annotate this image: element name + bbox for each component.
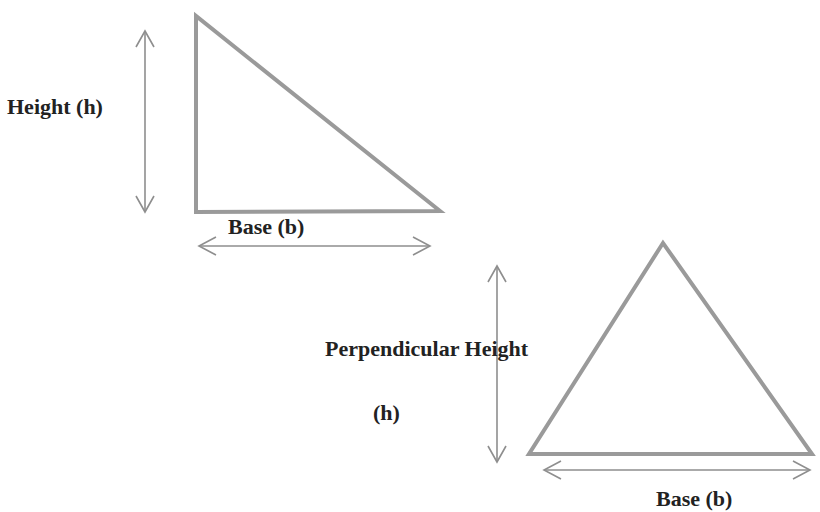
isosceles-triangle [529,243,812,454]
right-triangle [196,16,440,212]
perpendicular-height-label-h: (h) [373,402,400,424]
height-label: Height (h) [7,96,103,118]
base-label-2: Base (b) [656,488,732,510]
base-label: Base (b) [228,216,304,238]
perpendicular-height-arrow-icon [488,266,506,462]
perpendicular-height-label: Perpendicular Height [325,338,528,360]
base-arrow-icon [199,237,430,255]
diagram-canvas [0,0,820,512]
base-arrow-2-icon [544,461,810,479]
height-arrow-icon [136,31,154,212]
